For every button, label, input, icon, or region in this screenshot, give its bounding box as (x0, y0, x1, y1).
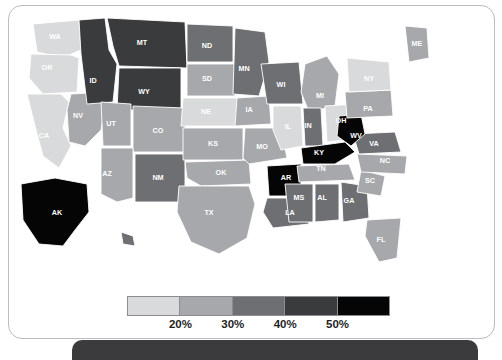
state-label-wi: WI (277, 80, 286, 89)
state-label-sd: SD (202, 74, 212, 83)
state-label-mo: MO (256, 142, 268, 151)
us-states-map[interactable]: WAORCANVIDMTWYUTCOAZNMNDSDNEKSOKTXMNIAMO… (9, 6, 495, 291)
state-label-mn: MN (238, 64, 249, 73)
state-label-mt: MT (137, 38, 148, 47)
legend-tick-20pct: 20% (169, 318, 192, 330)
state-label-ms: MS (294, 193, 305, 202)
legend-tick-30pct: 30% (221, 318, 244, 330)
legend-tick-40pct: 40% (274, 318, 297, 330)
state-or[interactable] (29, 54, 79, 94)
legend-band-4[interactable] (284, 296, 337, 316)
legend-tick-labels: 20%30%40%50% (128, 318, 390, 334)
state-label-la: LA (285, 208, 295, 217)
state-al[interactable] (315, 184, 339, 222)
state-label-ut: UT (106, 119, 116, 128)
state-label-nm: NM (152, 173, 163, 182)
state-label-mi: MI (316, 91, 324, 100)
state-label-sc: SC (365, 176, 375, 185)
state-label-id: ID (89, 76, 96, 85)
state-label-in: IN (304, 121, 311, 130)
state-label-az: AZ (102, 169, 112, 178)
map-container: WAORCANVIDMTWYUTCOAZNMNDSDNEKSOKTXMNIAMO… (9, 6, 495, 291)
legend-band-2[interactable] (179, 296, 232, 316)
state-label-nd: ND (202, 41, 212, 50)
state-label-al: AL (317, 193, 327, 202)
state-label-nv: NV (73, 111, 83, 120)
state-label-hi: HI (135, 234, 142, 243)
state-label-tx: TX (204, 208, 213, 217)
state-hi[interactable] (121, 232, 135, 246)
state-label-ok: OK (216, 168, 228, 177)
state-label-ne: NE (201, 107, 211, 116)
us-choropleth-card: WAORCANVIDMTWYUTCOAZNMNDSDNEKSOKTXMNIAMO… (8, 5, 495, 339)
legend-tick-50pct: 50% (326, 318, 349, 330)
state-ne[interactable] (181, 98, 241, 126)
state-label-wy: WY (138, 87, 150, 96)
legend-band-3[interactable] (232, 296, 285, 316)
state-label-ia: IA (245, 105, 252, 114)
state-shapes-group (21, 18, 429, 262)
state-tn[interactable] (297, 164, 355, 182)
state-label-oh: OH (336, 116, 347, 125)
state-label-wa: WA (49, 32, 61, 41)
legend-band-1[interactable] (127, 296, 180, 316)
state-tx[interactable] (177, 186, 255, 254)
state-label-or: OR (42, 63, 54, 72)
state-label-co: CO (153, 126, 164, 135)
bottom-bar (72, 340, 478, 360)
state-mn[interactable] (233, 28, 269, 96)
state-label-ky: KY (314, 148, 324, 157)
state-label-wv: WV (350, 131, 362, 140)
state-label-ga: GA (344, 196, 355, 205)
choropleth-legend[interactable] (128, 296, 390, 316)
state-label-ca: CA (39, 131, 49, 140)
state-label-me: ME (412, 39, 423, 48)
state-label-il: IL (285, 122, 292, 131)
state-label-pa: PA (363, 104, 372, 113)
legend-band-5[interactable] (337, 296, 390, 316)
state-ia[interactable] (235, 96, 271, 126)
state-label-ak: AK (52, 208, 63, 217)
state-label-va: VA (369, 139, 378, 148)
state-label-fl: FL (377, 235, 386, 244)
state-label-ny: NY (364, 74, 374, 83)
state-mi[interactable] (301, 56, 339, 112)
state-label-ar: AR (281, 173, 292, 182)
state-label-ks: KS (208, 139, 218, 148)
state-label-tn: TN (316, 164, 326, 173)
state-label-nc: NC (380, 156, 390, 165)
